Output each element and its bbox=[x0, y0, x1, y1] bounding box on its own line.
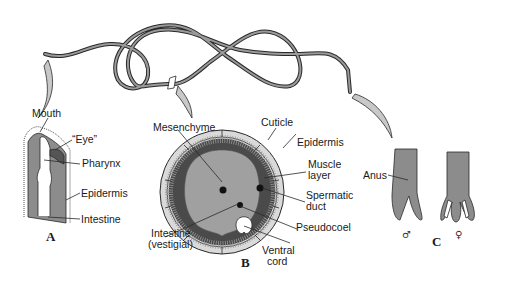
pseudocoel bbox=[236, 217, 252, 234]
section-cut-marker bbox=[168, 76, 176, 89]
label-muscle-layer-2: layer bbox=[308, 170, 331, 181]
label-pharynx: Pharynx bbox=[82, 158, 121, 169]
worm-body bbox=[45, 25, 350, 92]
arrow-to-C bbox=[352, 94, 392, 138]
spermatic-duct-left bbox=[220, 187, 227, 194]
label-mouth: Mouth bbox=[32, 108, 61, 119]
male-symbol-icon: ♂ bbox=[402, 229, 411, 240]
panel-letter-c: C bbox=[432, 234, 441, 250]
label-epidermis-a: Epidermis bbox=[81, 188, 128, 199]
label-spermatic-duct-2: duct bbox=[306, 201, 326, 212]
label-ventral-cord-2: cord bbox=[267, 256, 287, 267]
label-eye: “Eye” bbox=[72, 134, 97, 145]
label-intestine-b-2: (vestigial) bbox=[148, 239, 193, 250]
label-cuticle: Cuticle bbox=[261, 117, 293, 128]
panel-c-posterior bbox=[388, 149, 474, 222]
arrow-to-B bbox=[176, 86, 192, 118]
label-anus: Anus bbox=[363, 170, 387, 181]
label-epidermis-b: Epidermis bbox=[297, 137, 344, 148]
label-intestine-a: Intestine bbox=[81, 214, 121, 225]
label-mesenchyme: Mesenchyme bbox=[153, 122, 215, 133]
label-pseudocoel: Pseudocoel bbox=[296, 222, 351, 233]
panel-letter-a: A bbox=[46, 229, 55, 245]
female-symbol-icon: ♀ bbox=[455, 229, 462, 240]
panel-letter-b: B bbox=[241, 255, 250, 271]
